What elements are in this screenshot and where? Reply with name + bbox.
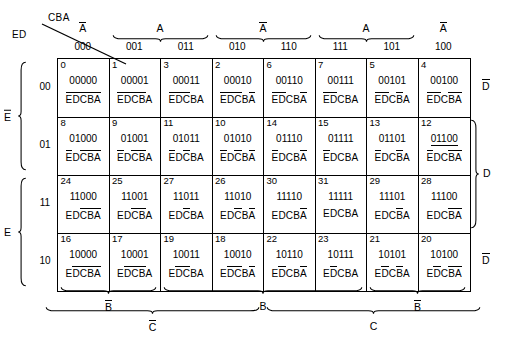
- bottom-group-label: C: [149, 320, 157, 333]
- cell-minterm: EDCBA: [264, 150, 315, 164]
- cell-index: 29: [370, 175, 381, 186]
- minterm-literal: C: [234, 208, 241, 221]
- cell-minterm: EDCBA: [419, 266, 471, 280]
- minterm-literal: E: [323, 150, 330, 163]
- cell-index: 12: [421, 117, 432, 128]
- kmap-row: 2411000EDCBA2511001EDCBA2711011EDCBA2611…: [58, 175, 470, 234]
- cell-index: 4: [421, 59, 426, 70]
- kmap-cell-13[interactable]: 1301101EDCBA: [367, 117, 419, 175]
- kmap-cell-7[interactable]: 700111EDCBA: [316, 59, 368, 117]
- right-group-label-wrap: D: [482, 79, 490, 92]
- kmap-cell-2[interactable]: 200010EDCBA: [213, 59, 265, 117]
- cell-index: 0: [61, 59, 66, 70]
- bottom-group-brace: [163, 291, 363, 300]
- kmap-cell-12[interactable]: 1201100EDCBA: [419, 117, 471, 175]
- kmap-cell-21[interactable]: 2110101EDCBA: [367, 233, 419, 291]
- kmap-cell-27[interactable]: 2711011EDCBA: [161, 175, 213, 233]
- kmap-cell-25[interactable]: 2511001EDCBA: [110, 175, 162, 233]
- kmap-cell-30[interactable]: 3011110EDCBA: [264, 175, 316, 233]
- kmap-cell-17[interactable]: 1710001EDCBA: [110, 233, 162, 291]
- right-group-label: D: [483, 167, 491, 179]
- minterm-literal: BA: [190, 210, 204, 221]
- kmap-cell-11[interactable]: 1101011EDCBA: [161, 117, 213, 175]
- column-group-a-3: A: [315, 18, 418, 40]
- cell-index: 25: [112, 175, 123, 186]
- minterm-literal: C: [234, 150, 241, 163]
- minterm-literal: E: [117, 150, 124, 163]
- cell-minterm: EDCBA: [264, 208, 315, 222]
- minterm-literal: ED: [323, 92, 337, 105]
- column-header-111: 111: [315, 41, 367, 52]
- column-group-label: A: [440, 22, 447, 35]
- minterm-literal: A: [146, 152, 153, 163]
- cell-index: 11: [164, 117, 174, 128]
- cell-binary: 01101: [367, 133, 418, 144]
- kmap-cell-26[interactable]: 2611010EDCBA: [213, 175, 265, 233]
- cell-index: 13: [370, 117, 381, 128]
- cell-binary: 00111: [316, 75, 367, 86]
- cell-minterm: EDCBA: [367, 92, 418, 106]
- cell-minterm: EDCBA: [161, 150, 212, 164]
- cell-index: 5: [370, 59, 375, 70]
- cell-binary: 10011: [161, 249, 212, 260]
- cell-binary: 11111: [316, 191, 367, 202]
- kmap-cell-14[interactable]: 1401110EDCBA: [264, 117, 316, 175]
- kmap-cell-31[interactable]: 3111111EDCBA: [316, 175, 368, 233]
- cell-minterm: EDCBA: [367, 266, 418, 280]
- minterm-literal: DCB: [278, 152, 300, 163]
- kmap-cell-29[interactable]: 2911101EDCBA: [367, 175, 419, 233]
- kmap-cell-1[interactable]: 100001EDCBA: [110, 59, 162, 117]
- cell-minterm: EDCBA: [110, 150, 161, 164]
- kmap-cell-20[interactable]: 2010100EDCBA: [419, 233, 471, 291]
- minterm-literal: EDC: [220, 92, 242, 105]
- kmap-cell-9[interactable]: 901001EDCBA: [110, 117, 162, 175]
- kmap-cell-28[interactable]: 2811100EDCBA: [419, 175, 471, 233]
- kmap-cell-19[interactable]: 1910011EDCBA: [161, 233, 213, 291]
- kmap-cell-0[interactable]: 000000EDCBA: [58, 59, 110, 117]
- right-group-brace: [470, 119, 480, 229]
- cell-index: 21: [370, 233, 381, 244]
- right-group-label: D: [482, 253, 490, 266]
- cell-index: 14: [267, 117, 278, 128]
- kmap-cell-8[interactable]: 801000EDCBA: [58, 117, 110, 175]
- cell-minterm: EDCBA: [58, 208, 109, 222]
- bottom-group-brace: [369, 291, 466, 300]
- kmap-cell-15[interactable]: 1501111EDCBA: [316, 117, 368, 175]
- kmap-row: 801000EDCBA901001EDCBA1101011EDCBA100101…: [58, 117, 470, 176]
- minterm-literal: E: [427, 268, 434, 279]
- bottom-group-label: C: [370, 320, 378, 332]
- minterm-literal: D: [175, 152, 182, 163]
- cell-minterm: EDCBA: [161, 92, 212, 106]
- column-header-011: 011: [160, 41, 212, 52]
- row-header-00: 00: [34, 58, 56, 116]
- cell-minterm: EDCBA: [58, 150, 109, 164]
- minterm-literal: CBA: [337, 94, 358, 105]
- kmap-cell-10[interactable]: 1001010EDCBA: [213, 117, 265, 175]
- kmap-cell-16[interactable]: 1610000EDCBA: [58, 233, 110, 291]
- row-group-labels: EE: [4, 58, 34, 290]
- kmap-cell-5[interactable]: 500101EDCBA: [367, 59, 419, 117]
- cell-binary: 10101: [367, 249, 418, 260]
- kmap-row: 000000EDCBA100001EDCBA300011EDCBA200010E…: [58, 59, 470, 118]
- minterm-literal: E: [66, 268, 73, 279]
- cell-index: 16: [61, 233, 72, 244]
- row-group-not-e: E: [4, 61, 34, 171]
- kmap-cell-18[interactable]: 1810010EDCBA: [213, 233, 265, 291]
- minterm-literal: BA: [190, 94, 204, 105]
- row-group-e: E: [4, 177, 34, 287]
- kmap-cell-4[interactable]: 400100EDCBA: [419, 59, 471, 117]
- karnaugh-map-grid: 000000EDCBA100001EDCBA300011EDCBA200010E…: [57, 58, 471, 292]
- cell-index: 23: [318, 233, 329, 244]
- bottom-group-labels-c: CC: [42, 311, 484, 333]
- cell-minterm: EDCBA: [213, 208, 264, 222]
- kmap-cell-23[interactable]: 2310111EDCBA: [316, 233, 368, 291]
- kmap-cell-22[interactable]: 2210110EDCBA: [264, 233, 316, 291]
- minterm-literal: A: [403, 268, 410, 279]
- minterm-literal: E: [220, 268, 227, 279]
- cell-minterm: EDCBA: [316, 150, 367, 164]
- kmap-cell-24[interactable]: 2411000EDCBA: [58, 175, 110, 233]
- kmap-cell-3[interactable]: 300011EDCBA: [161, 59, 213, 117]
- minterm-literal: A: [146, 268, 153, 279]
- kmap-cell-6[interactable]: 600110EDCBA: [264, 59, 316, 117]
- minterm-literal: C: [389, 94, 396, 105]
